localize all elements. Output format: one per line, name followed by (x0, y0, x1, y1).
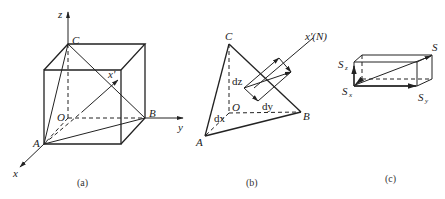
cube-front-face (44, 70, 121, 144)
figure-canvas: z C x' O B y A x (a) C x'(N) dz O dy dx … (0, 0, 445, 199)
label-y: y (177, 121, 183, 133)
label-sz-sub: z (344, 64, 348, 72)
vector-resultant (244, 72, 291, 88)
label-b: B (303, 110, 310, 122)
x-axis (20, 144, 44, 167)
label-dx: dx (214, 112, 226, 124)
caption-a: (a) (77, 177, 88, 189)
vector-s (355, 56, 431, 85)
caption-b: (b) (246, 177, 258, 189)
label-sy: S (418, 91, 424, 103)
label-b: B (149, 107, 156, 119)
caption-c: (c) (385, 173, 396, 185)
label-a: A (32, 137, 40, 149)
label-z: z (57, 8, 63, 20)
panel-c-box-diagram: S S z S x S y (c) (338, 41, 438, 185)
box-front-face (354, 62, 417, 86)
edge-ca (44, 44, 68, 144)
label-dy: dy (262, 100, 274, 112)
x-prime-axis (82, 80, 118, 112)
label-sy-sub: y (424, 97, 429, 105)
label-a: A (195, 136, 203, 148)
label-sx: S (342, 85, 348, 97)
label-s: S (432, 41, 438, 53)
label-o: O (232, 101, 240, 113)
vector-dy (244, 88, 258, 101)
edge-cb (68, 44, 145, 118)
label-sx-sub: x (348, 91, 353, 99)
label-o: O (57, 111, 65, 123)
label-dz: dz (232, 75, 243, 87)
label-x: x (12, 167, 18, 179)
panel-a-cube-diagram: z C x' O B y A x (a) (12, 8, 183, 189)
label-c: C (72, 34, 80, 46)
box-right-back (417, 55, 432, 86)
panel-b-tetrahedron-diagram: C x'(N) dz O dy dx B A (b) (195, 30, 327, 189)
box-top-back (354, 55, 432, 62)
cube-top-back (44, 44, 145, 70)
label-x-prime-n: x'(N) (304, 30, 327, 43)
label-c: C (225, 30, 233, 42)
cube-right-back (121, 44, 145, 144)
label-sz: S (338, 58, 344, 70)
label-x-prime: x' (107, 68, 116, 80)
